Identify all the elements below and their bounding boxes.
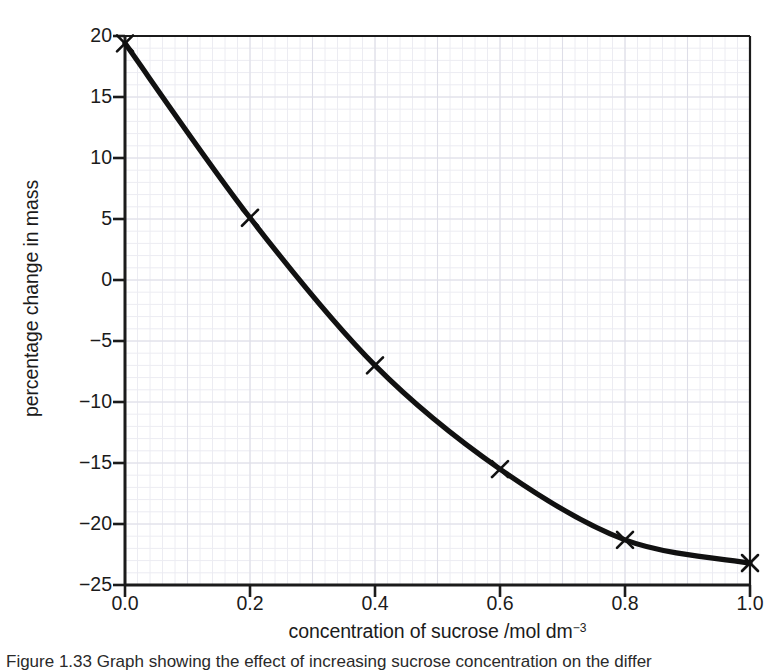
grid-major — [125, 36, 750, 585]
figure-caption: Figure 1.33 Graph showing the effect of … — [6, 652, 784, 672]
